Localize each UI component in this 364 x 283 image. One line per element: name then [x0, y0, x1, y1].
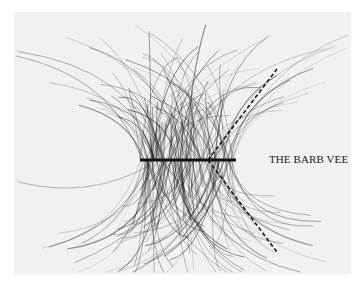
barb-vee-caption: THE BARB VEE	[269, 153, 348, 165]
feather-barbs	[16, 25, 348, 272]
feather-illustration	[0, 0, 364, 283]
